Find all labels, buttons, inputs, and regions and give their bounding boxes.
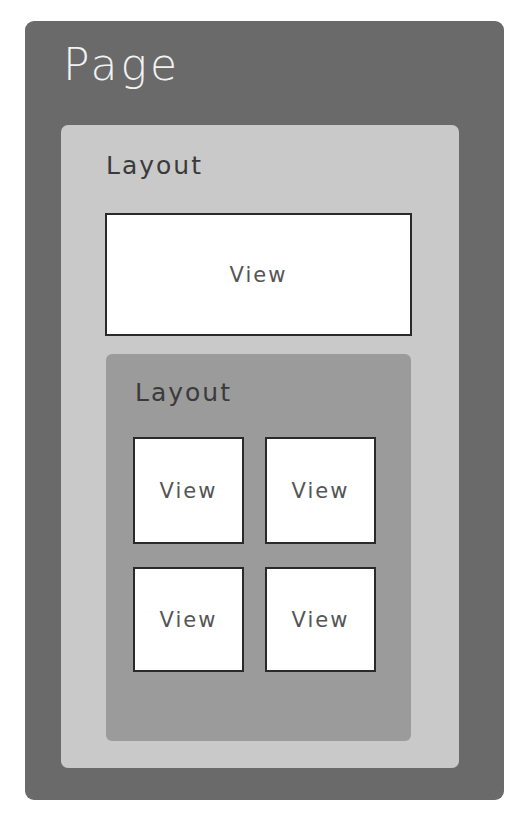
- outer-layout-label: Layout: [106, 153, 203, 178]
- grid-view: View: [133, 567, 244, 672]
- grid-view-label: View: [292, 479, 350, 503]
- grid-view: View: [133, 437, 244, 544]
- top-view: View: [105, 213, 412, 336]
- top-view-label: View: [230, 263, 288, 287]
- grid-view-label: View: [292, 608, 350, 632]
- grid-view-label: View: [160, 608, 218, 632]
- inner-layout: [106, 354, 411, 741]
- inner-layout-label: Layout: [135, 380, 232, 405]
- grid-view: View: [265, 567, 376, 672]
- grid-view-label: View: [160, 479, 218, 503]
- page-label: Page: [63, 43, 180, 87]
- grid-view: View: [265, 437, 376, 544]
